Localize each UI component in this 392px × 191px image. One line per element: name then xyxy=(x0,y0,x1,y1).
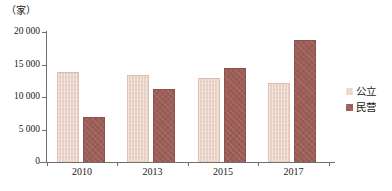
y-axis-label: 15 000 xyxy=(0,60,40,70)
plot-area xyxy=(47,32,329,162)
y-axis-label-wrap: 20 000 xyxy=(0,27,40,37)
bar-group-2010 xyxy=(47,32,117,162)
y-axis-label-wrap: 0 xyxy=(0,157,40,167)
x-axis-label-2010: 2010 xyxy=(47,166,117,178)
bar-private-2017[interactable] xyxy=(294,40,316,162)
bar-public-2017[interactable] xyxy=(268,83,290,162)
y-axis-label: 0 xyxy=(0,157,40,167)
legend-label-public: 公立 xyxy=(356,86,376,97)
bar-private-2013[interactable] xyxy=(153,89,175,163)
x-axis-label-2015: 2015 xyxy=(188,166,258,178)
bar-group-2017 xyxy=(258,32,329,162)
x-axis-tick xyxy=(329,162,330,166)
y-axis-label-wrap: 10 000 xyxy=(0,92,40,102)
bar-group-2015 xyxy=(188,32,258,162)
y-axis-label-wrap: 5 000 xyxy=(0,125,40,135)
legend-label-private: 民营 xyxy=(356,102,376,113)
y-axis-label: 20 000 xyxy=(0,27,40,37)
bar-public-2015[interactable] xyxy=(198,78,220,163)
y-axis-label: 5 000 xyxy=(0,125,40,135)
bar-group-2013 xyxy=(117,32,188,162)
y-axis-label-wrap: 15 000 xyxy=(0,60,40,70)
legend-item-public[interactable]: 公立 xyxy=(346,84,392,98)
bar-private-2015[interactable] xyxy=(224,68,246,162)
legend-swatch-icon-private xyxy=(346,104,353,111)
legend-item-private[interactable]: 民营 xyxy=(346,100,392,114)
y-axis-label: 10 000 xyxy=(0,92,40,102)
bar-public-2013[interactable] xyxy=(127,75,149,162)
bar-private-2010[interactable] xyxy=(83,117,105,163)
bar-public-2010[interactable] xyxy=(57,72,79,162)
x-axis-label-2013: 2013 xyxy=(117,166,188,178)
bar-chart: （家） 20 000 15 000 10 000 5 000 0 xyxy=(0,0,392,191)
y-axis-unit-label: （家） xyxy=(6,2,36,17)
chart-legend: 公立 民营 xyxy=(346,84,392,116)
x-axis-label-2017: 2017 xyxy=(258,166,329,178)
legend-swatch-icon-public xyxy=(346,88,353,95)
